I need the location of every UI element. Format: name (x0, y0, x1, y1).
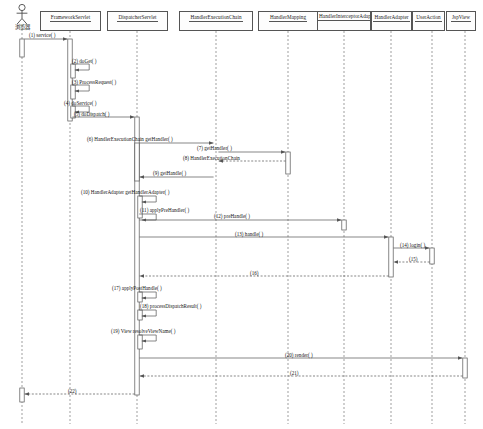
participant-label: HandlerInterceptorAdapter (318, 13, 371, 21)
participant-head-jsp-view: JspView (446, 11, 476, 31)
activation-bar-jsp-view (463, 358, 467, 378)
message-label-21: (21) (290, 370, 299, 376)
activation-bar-user-action (430, 248, 434, 264)
message-label-20: (20) render( ) (285, 352, 313, 358)
participant-head-handler-mapping: HandlerMapping (258, 11, 318, 31)
message-label-16: (16) (250, 270, 259, 276)
participant-head-handler-adapter: HandlerAdapter (371, 11, 412, 31)
message-label-12: (12) preHandle( ) (214, 213, 250, 219)
activation-bar-handler-execution-chain (135, 143, 139, 181)
activation-bar-framework-servlet (71, 85, 75, 99)
message-label-15: (15) (409, 256, 418, 262)
message-label-7: (7) getHandler( ) (197, 145, 232, 151)
message-label-6: (6) HandlerExecutionChain getHandler( ) (87, 136, 173, 142)
activation-bar-framework-servlet (71, 64, 75, 78)
activation-bar-handler-interceptor-adapter (342, 220, 346, 230)
participant-head-framework-servlet: FrameworkServlet (40, 11, 101, 31)
message-label-11: (11) applyPreHandler( ) (140, 207, 189, 213)
message-label-5: (5) doDispatch( ) (74, 111, 109, 117)
activation-group (20, 39, 467, 402)
message-label-10: (10) HandlerAdapter getHandlerAdapter( ) (81, 189, 169, 195)
message-label-14: (14) login( ) (400, 242, 425, 248)
activation-bar-dispatcher-servlet (138, 335, 142, 349)
message-label-18: (18) processDispatchResult( ) (140, 303, 201, 309)
message-label-3: (3) ProcessRequest( ) (72, 79, 116, 85)
message-label-22: (22) (68, 388, 77, 394)
participant-label: HandlerAdapter (373, 14, 409, 22)
message-label-19: (19) View resolveViewName( ) (111, 328, 176, 334)
participant-head-handler-execution-chain: HandlerExecutionChain (179, 11, 253, 31)
activation-bar-dispatcher-servlet (138, 292, 142, 302)
activation-bar-dispatcher-servlet (138, 310, 142, 320)
participant-label: DispatcherServlet (117, 14, 157, 22)
uml-sequence-diagram: 浏览器 FrameworkServletDispatcherServletHan… (0, 0, 483, 429)
message-label-8: (8) HandlerExecutionChain (183, 155, 240, 161)
message-label-9: (9) getHandle( ) (153, 170, 186, 176)
message-label-4: (4) doService( ) (64, 100, 97, 106)
participant-label: FrameworkServlet (50, 14, 91, 22)
participant-label: JspView (451, 14, 471, 22)
participant-label: HandlerMapping (269, 14, 307, 22)
activation-bar-browser-actor (20, 388, 24, 402)
message-label-13: (13) handle( ) (235, 231, 263, 237)
activation-bar-handler-mapping (286, 152, 290, 174)
message-label-17: (17) applyPostHandle( ) (112, 285, 162, 291)
activation-bar-handler-adapter (389, 237, 393, 277)
participant-head-user-action: UserAction (412, 11, 445, 31)
participant-label: UserAction (415, 14, 441, 22)
participant-head-dispatcher-servlet: DispatcherServlet (107, 11, 168, 31)
message-label-2: (2) doGet( ) (72, 58, 97, 64)
actor-stick-figure-icon (17, 4, 28, 24)
activation-bar-browser-actor (20, 39, 24, 57)
message-label-1: (1) service( ) (29, 32, 56, 38)
participant-head-handler-interceptor-adapter: HandlerInterceptorAdapter (317, 11, 371, 31)
participant-label: HandlerExecutionChain (189, 14, 242, 22)
